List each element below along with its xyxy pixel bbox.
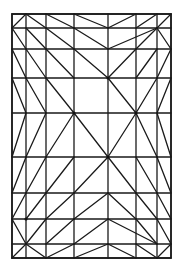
diagonal-line <box>26 28 46 49</box>
diagonal-line <box>12 244 26 258</box>
diagonal-line <box>46 157 74 193</box>
diagonal-line <box>46 14 74 28</box>
diagonal-line <box>12 113 26 157</box>
diagonal-line <box>108 49 136 78</box>
diagonal-line <box>12 193 26 219</box>
diagonal-line <box>157 157 171 193</box>
diagonal-line <box>157 244 171 258</box>
diagonal-line <box>136 157 157 193</box>
diagonal-line <box>157 219 171 244</box>
diagonal-line <box>108 244 136 258</box>
diagonal-line <box>136 113 157 157</box>
diagonal-line <box>12 157 26 193</box>
diagonal-line <box>108 28 157 49</box>
diagonal-line <box>12 49 26 78</box>
diagonal-line <box>136 49 157 78</box>
diagonal-line <box>26 157 46 193</box>
diagonal-line <box>108 219 157 244</box>
diagonal-line <box>108 193 136 219</box>
diagonal-line <box>157 49 171 78</box>
diagonal-line <box>157 193 171 219</box>
diagonal-line <box>26 49 46 78</box>
diagonal-line <box>108 157 136 193</box>
diagonal-line <box>108 78 136 113</box>
diagonal-line <box>136 219 157 244</box>
diagonal-line <box>46 49 74 78</box>
diagonal-lines <box>12 14 171 258</box>
diagonal-line <box>46 219 74 244</box>
diagonal-line <box>157 113 171 157</box>
diagonal-line <box>74 28 108 49</box>
diagonal-line <box>74 193 108 219</box>
diagonal-line <box>46 193 74 219</box>
mesh-node <box>72 111 75 114</box>
mesh-node <box>24 217 27 220</box>
diagonal-line <box>46 113 74 157</box>
diagonal-line <box>12 219 26 244</box>
diagonal-line <box>157 14 171 28</box>
diagonal-line <box>108 113 136 157</box>
diagonal-line <box>157 78 171 113</box>
mesh-node <box>106 155 109 158</box>
diagonal-line <box>157 28 171 49</box>
triangulated-mesh-diagram <box>0 0 182 276</box>
diagonal-line <box>74 113 108 157</box>
diagonal-line <box>74 219 108 244</box>
diagonal-line <box>136 244 157 258</box>
diagonal-line <box>12 14 26 28</box>
diagonal-line <box>136 193 157 219</box>
diagonal-line <box>136 28 157 49</box>
diagonal-line <box>26 113 46 157</box>
diagonal-line <box>136 14 157 28</box>
diagonal-line <box>12 28 26 49</box>
diagonal-line <box>12 78 26 113</box>
diagonal-line <box>26 219 46 244</box>
diagonal-line <box>26 78 46 113</box>
diagonal-line <box>46 244 74 258</box>
diagonal-line <box>74 244 108 258</box>
diagonal-line <box>26 14 46 28</box>
diagonal-line <box>74 157 108 193</box>
mesh-node <box>106 76 109 79</box>
diagonal-line <box>108 14 136 28</box>
diagonal-line <box>136 78 157 113</box>
diagonal-line <box>74 14 108 28</box>
diagonal-line <box>26 244 46 258</box>
diagonal-line <box>26 193 46 219</box>
diagonal-line <box>74 49 108 78</box>
mesh-node <box>134 111 137 114</box>
diagonal-line <box>46 78 74 113</box>
diagonal-line <box>46 28 74 49</box>
